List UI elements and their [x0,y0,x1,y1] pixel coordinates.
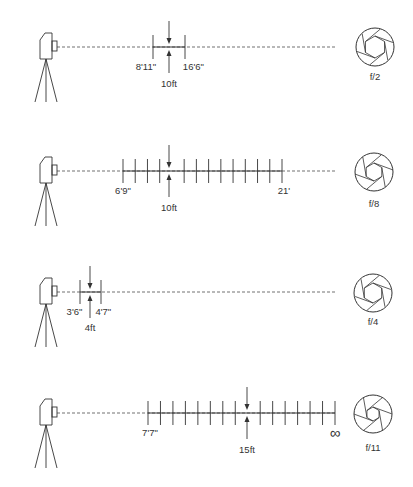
near-limit-label-f2: 8'11" [136,62,156,72]
row-f2 [35,21,394,102]
near-limit-label-f11: 7'7" [142,428,158,438]
camera-on-tripod-icon [35,278,57,347]
depth-of-field-zone [148,401,335,425]
near-limit-label-f8: 6'9" [115,186,131,196]
aperture-label-f8: f/8 [369,199,380,209]
camera-on-tripod-icon [35,33,57,102]
aperture-icon [354,274,392,312]
focus-distance-label-f2: 10ft [161,79,177,89]
row-f4 [35,266,392,347]
aperture-label-f4: f/4 [368,317,379,327]
depth-of-field-zone [123,159,282,183]
far-limit-label-f4: 4'7" [95,307,111,317]
depth-of-field-diagram [0,0,413,487]
far-limit-label-f2: 16'6" [183,62,204,72]
aperture-label-f2: f/2 [370,72,381,82]
camera-on-tripod-icon [35,157,57,226]
near-limit-label-f4: 3'6" [67,307,83,317]
aperture-icon [356,28,394,66]
far-limit-label-f8: 21' [278,186,290,196]
far-limit-label-f11: ∞ [330,425,341,440]
aperture-icon [355,153,393,191]
row-f8 [35,145,393,226]
focus-distance-label-f4: 4ft [85,323,96,333]
camera-on-tripod-icon [35,399,57,468]
aperture-icon [354,395,392,433]
focus-distance-label-f8: 10ft [161,203,177,213]
aperture-label-f11: f/11 [365,443,380,453]
focus-distance-label-f11: 15ft [239,445,255,455]
diagram-canvas [0,0,413,487]
